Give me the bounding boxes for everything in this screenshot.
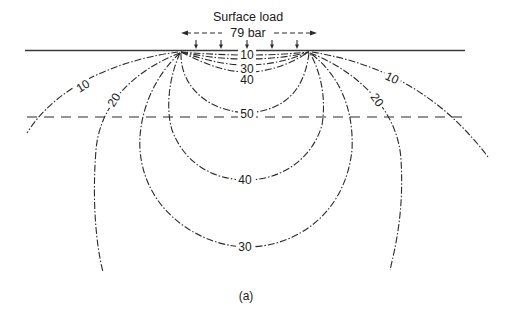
down-arrow-icon xyxy=(295,40,299,49)
down-arrow-icon xyxy=(270,40,274,49)
label-inner-10: 10 xyxy=(240,48,254,62)
diagram-title: Surface load xyxy=(213,10,283,24)
down-arrow-icon xyxy=(194,40,198,49)
arrowhead-right-icon xyxy=(310,31,317,36)
label-right-20: 20 xyxy=(367,91,386,110)
label-inner-50: 50 xyxy=(240,107,254,121)
contour-labels: 10 30 40 50 40 30 10 20 10 20 xyxy=(72,48,403,254)
stress-contour-diagram: Surface load 79 bar 10 30 40 xyxy=(0,0,507,320)
down-arrow-icon xyxy=(219,40,223,49)
label-outer-30: 30 xyxy=(238,240,252,254)
arrowhead-left-icon xyxy=(181,31,188,36)
label-left-10: 10 xyxy=(74,76,93,95)
contour-right-10 xyxy=(312,52,488,157)
figure-caption: (a) xyxy=(239,289,254,303)
load-value-label: 79 bar xyxy=(230,26,265,40)
contour-left-20 xyxy=(94,53,180,272)
label-outer-40: 40 xyxy=(238,173,252,187)
label-inner-40: 40 xyxy=(240,73,254,87)
contour-right-20 xyxy=(310,53,402,270)
